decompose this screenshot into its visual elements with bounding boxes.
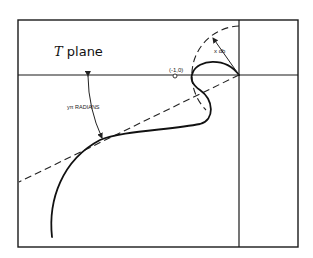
frequency-response-curve [51,62,239,237]
plane-label: T plane [54,44,103,59]
gain-margin-label: x db [214,48,226,54]
t-plane-nyquist-diagram: T plane (-1,0) x db yπ RADIANS [0,0,313,258]
phase-margin-label: yπ RADIANS [67,104,100,110]
phase-tangent-line [19,75,239,182]
gain-margin-arrow [213,38,239,75]
critical-point-label: (-1,0) [169,67,183,73]
critical-point-marker [173,74,177,78]
